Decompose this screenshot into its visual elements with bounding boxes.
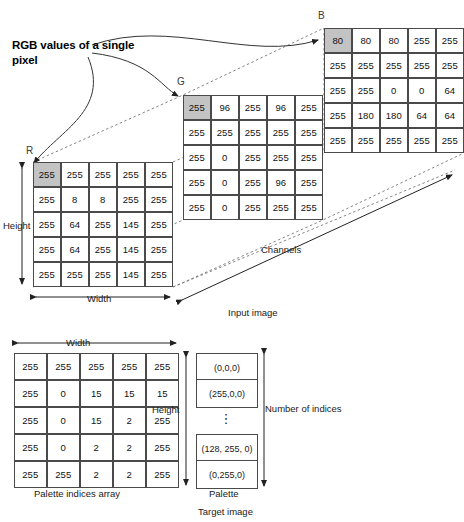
palette-entry: (0,255,0)	[196, 460, 258, 489]
grid-cell: 255	[267, 145, 296, 171]
grid-cell: 2	[113, 434, 147, 462]
grid-cell: 255	[352, 128, 381, 154]
grid-cell: 255	[267, 195, 296, 221]
grid-cell: 255	[239, 145, 268, 171]
grid-cell: 255	[352, 53, 381, 79]
grid-cell: 80	[380, 28, 409, 54]
grid-cell: 255	[145, 187, 174, 213]
grid-cell: 255	[61, 262, 90, 288]
grid-cell: 8	[61, 187, 90, 213]
grid-cell: 255	[295, 120, 324, 146]
grid-cell: 64	[436, 103, 464, 129]
grid-cell: 255	[408, 53, 437, 79]
grid-cell: 255	[33, 262, 62, 288]
grid-cell: 255	[211, 120, 240, 146]
grid-cell: 255	[47, 353, 81, 381]
grid-cell: 255	[239, 195, 268, 221]
grid-cell: 255	[145, 262, 174, 288]
grid-cell: 255	[117, 187, 146, 213]
grid-cell: 2	[113, 461, 147, 489]
grid-cell: 80	[324, 28, 353, 54]
grid-cell: 255	[295, 195, 324, 221]
channel-label-r: R	[26, 145, 33, 156]
grid-cell: 255	[14, 461, 48, 489]
input-height-label: Height	[3, 220, 30, 231]
palette-entry: (128, 255, 0)	[196, 434, 258, 463]
grid-cell: 255	[239, 120, 268, 146]
grid-cell: 255	[295, 145, 324, 171]
grid-cell: 255	[146, 353, 180, 381]
grid-cell: 255	[145, 237, 174, 263]
channel-grid-r: 255 255 255 255 255 255 8 8 255 255 255 …	[33, 162, 173, 287]
grid-cell: 255	[117, 162, 146, 188]
grid-cell: 255	[14, 380, 48, 408]
grid-cell: 64	[436, 78, 464, 104]
grid-cell: 2	[80, 461, 114, 489]
grid-cell: 15	[80, 407, 114, 435]
grid-cell: 255	[183, 195, 212, 221]
channel-label-b: B	[318, 10, 325, 21]
palette-label: Palette	[209, 488, 239, 499]
palette-indices-grid: 255 255 255 255 255 255 0 15 15 15 255 0…	[14, 353, 179, 488]
grid-cell: 255	[324, 103, 353, 129]
input-width-label: Width	[87, 293, 111, 304]
channel-grid-b: 80 80 80 255 255 255 255 255 255 255 255…	[324, 28, 464, 153]
palette-indices-array-label: Palette indices array	[34, 488, 120, 499]
target-height-label: Height	[152, 404, 179, 415]
grid-cell: 255	[47, 461, 81, 489]
channel-label-g: G	[177, 76, 185, 87]
grid-cell: 145	[117, 262, 146, 288]
grid-cell: 180	[352, 103, 381, 129]
grid-cell: 255	[183, 95, 212, 121]
callout-rgb-values: RGB values of a single pixel	[12, 38, 162, 68]
grid-cell: 0	[380, 78, 409, 104]
grid-cell: 255	[267, 120, 296, 146]
grid-cell: 255	[113, 353, 147, 381]
grid-cell: 255	[89, 162, 118, 188]
channel-grid-g: 255 96 255 96 255 255 255 255 255 255 25…	[183, 95, 323, 220]
grid-cell: 15	[146, 380, 180, 408]
grid-cell: 64	[61, 237, 90, 263]
grid-cell: 255	[239, 170, 268, 196]
input-image-label: Input image	[228, 307, 278, 318]
grid-cell: 64	[61, 212, 90, 238]
grid-cell: 8	[89, 187, 118, 213]
palette-entry: (0,0,0)	[196, 353, 258, 382]
grid-cell: 255	[89, 212, 118, 238]
grid-cell: 96	[211, 95, 240, 121]
grid-cell: 180	[380, 103, 409, 129]
grid-cell: 255	[33, 212, 62, 238]
grid-cell: 255	[295, 95, 324, 121]
grid-cell: 255	[239, 95, 268, 121]
grid-cell: 0	[408, 78, 437, 104]
grid-cell: 255	[89, 237, 118, 263]
grid-cell: 0	[47, 434, 81, 462]
grid-cell: 255	[145, 212, 174, 238]
grid-cell: 255	[408, 28, 437, 54]
grid-cell: 255	[33, 162, 62, 188]
grid-cell: 255	[89, 262, 118, 288]
grid-cell: 255	[146, 434, 180, 462]
palette-entry: (255,0,0)	[196, 379, 258, 408]
grid-cell: 255	[14, 353, 48, 381]
number-of-indices-label: Number of indices	[265, 403, 342, 414]
grid-cell: 255	[436, 28, 464, 54]
grid-cell: 96	[267, 170, 296, 196]
grid-cell: 255	[14, 434, 48, 462]
grid-cell: 145	[117, 212, 146, 238]
grid-cell: 255	[183, 145, 212, 171]
grid-cell: 255	[324, 53, 353, 79]
grid-cell: 255	[183, 120, 212, 146]
target-width-label: Width	[66, 337, 90, 348]
grid-cell: 255	[33, 237, 62, 263]
grid-cell: 255	[324, 128, 353, 154]
grid-cell: 255	[324, 78, 353, 104]
grid-cell: 255	[436, 53, 464, 79]
grid-cell: 255	[352, 78, 381, 104]
grid-cell: 255	[408, 128, 437, 154]
grid-cell: 255	[33, 187, 62, 213]
target-image-label: Target image	[198, 506, 253, 517]
grid-cell: 0	[211, 170, 240, 196]
grid-cell: 255	[146, 461, 180, 489]
